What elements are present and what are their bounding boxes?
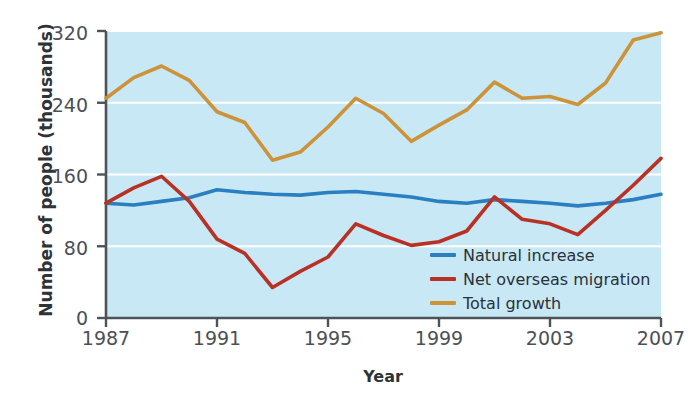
x-tick-label: 1991 <box>177 327 257 349</box>
legend-item: Total growth <box>430 291 650 315</box>
legend-label: Natural increase <box>463 246 595 265</box>
y-tick-label: 240 <box>28 96 88 115</box>
legend-item: Net overseas migration <box>430 267 650 291</box>
chart-legend: Natural increase Net overseas migration … <box>430 243 650 315</box>
x-tick-label: 2003 <box>510 327 590 349</box>
legend-swatch-net-overseas-migration <box>430 277 456 281</box>
y-tick-label: 160 <box>28 167 88 186</box>
x-tick-label: 1995 <box>288 327 368 349</box>
legend-label: Net overseas migration <box>463 270 650 289</box>
x-axis-title: Year <box>105 367 661 386</box>
legend-item: Natural increase <box>430 243 650 267</box>
legend-swatch-natural-increase <box>430 253 456 257</box>
legend-label: Total growth <box>463 294 561 313</box>
x-tick-label: 1999 <box>399 327 479 349</box>
x-tick-label: 1987 <box>66 327 146 349</box>
legend-swatch-total-growth <box>430 301 456 305</box>
y-tick-label: 0 <box>28 309 88 328</box>
x-tick-label: 2007 <box>621 327 689 349</box>
y-tick-label: 80 <box>28 239 88 258</box>
y-tick-label: 320 <box>28 24 88 43</box>
